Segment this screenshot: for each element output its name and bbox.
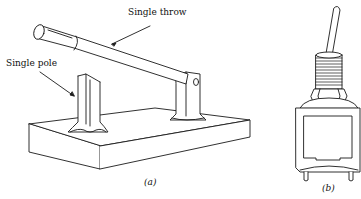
caption-a: (a) (144, 178, 156, 187)
toggle-switch-drawing (296, 6, 360, 181)
single-pole-label: Single pole (6, 59, 57, 68)
switch-blade (32, 23, 188, 84)
single-throw-label: Single throw (128, 8, 187, 17)
pole-leader-line (40, 72, 74, 96)
caption-b: (b) (322, 184, 335, 193)
switch-diagram (0, 0, 361, 199)
knife-switch-drawing (29, 23, 250, 169)
throw-leader-line (112, 26, 150, 44)
figure-canvas: Single throw Single pole (a) (b) (0, 0, 361, 199)
